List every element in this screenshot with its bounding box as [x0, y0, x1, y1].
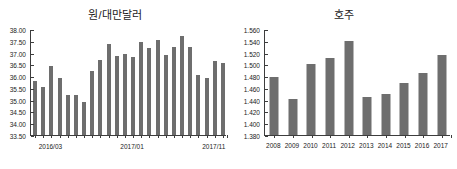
y-axis-tick	[265, 124, 268, 125]
y-axis-tick	[265, 54, 268, 55]
x-axis-tick	[451, 135, 452, 138]
bar	[363, 97, 372, 135]
x-axis-tick	[293, 135, 294, 138]
x-axis-tick	[207, 135, 208, 138]
bar-slot	[113, 30, 121, 135]
bar	[307, 64, 316, 135]
bar-slot	[186, 30, 194, 135]
x-axis-tick	[125, 135, 126, 138]
bar	[41, 87, 45, 135]
bar	[49, 66, 53, 135]
bar	[270, 77, 279, 135]
x-axis-tick-label: 2010	[303, 142, 317, 149]
x-axis-tick	[158, 135, 159, 138]
x-axis-tick	[215, 135, 216, 138]
plot-area-right	[264, 30, 450, 136]
x-axis-tick	[274, 135, 275, 138]
y-axis-tick-label: 1.500	[230, 62, 260, 69]
x-axis-tick	[60, 135, 61, 138]
x-axis-tick-label: 2014	[378, 142, 392, 149]
bar	[123, 54, 127, 135]
x-axis-tick	[166, 135, 167, 138]
bar	[180, 36, 184, 135]
y-axis-tick	[31, 112, 34, 113]
bar-slot	[47, 30, 55, 135]
y-axis-tick-label: 35.50	[0, 85, 26, 92]
bar-slot	[395, 30, 414, 135]
x-axis-tick	[133, 135, 134, 138]
bar-slot	[211, 30, 219, 135]
chart-panel-australia: 호주 1.5601.5401.5201.5001.4801.4601.4401.…	[230, 0, 457, 169]
x-axis-tick	[149, 135, 150, 138]
bar	[381, 94, 390, 135]
bar	[437, 55, 446, 135]
x-axis-tick	[223, 135, 224, 138]
y-axis-tick	[31, 124, 34, 125]
bar-slot	[39, 30, 47, 135]
bar-slot	[178, 30, 186, 135]
y-axis-tick-label: 1.460	[230, 85, 260, 92]
bar-slot	[377, 30, 396, 135]
x-axis-tick	[117, 135, 118, 138]
bar	[82, 102, 86, 135]
y-axis-tick	[265, 112, 268, 113]
x-axis-tick	[35, 135, 36, 138]
x-axis-tick	[141, 135, 142, 138]
bar-slot	[72, 30, 80, 135]
x-axis-tick-label: 2015	[396, 142, 410, 149]
x-axis-tick-label: 2008	[266, 142, 280, 149]
bar-slot	[203, 30, 211, 135]
y-axis-tick-label: 1.440	[230, 97, 260, 104]
bar-slot	[265, 30, 284, 135]
bar	[115, 56, 119, 135]
plot-area-left	[30, 30, 226, 136]
y-axis-tick-label: 1.540	[230, 38, 260, 45]
x-axis-tick-label: 2016	[415, 142, 429, 149]
x-axis-tick	[227, 135, 228, 138]
x-axis-tick-label: 2017/01	[120, 143, 144, 150]
x-axis-tick	[190, 135, 191, 138]
bar-slot	[96, 30, 104, 135]
x-axis-tick	[312, 135, 313, 138]
bar	[288, 99, 297, 135]
y-axis-tick-label: 34.50	[0, 109, 26, 116]
y-axis-tick-label: 1.560	[230, 27, 260, 34]
bar-slot	[302, 30, 321, 135]
bar-slot	[219, 30, 227, 135]
bar	[205, 78, 209, 135]
bar	[107, 44, 111, 135]
y-axis-tick-label: 36.50	[0, 62, 26, 69]
bar-slot	[80, 30, 88, 135]
y-axis-tick-label: 1.400	[230, 121, 260, 128]
y-axis-tick-label: 37.50	[0, 38, 26, 45]
bar-slot	[414, 30, 433, 135]
bar	[139, 42, 143, 135]
y-axis-tick-label: 1.520	[230, 50, 260, 57]
bar	[400, 83, 409, 135]
bar	[98, 60, 102, 135]
y-axis-tick-label: 35.00	[0, 97, 26, 104]
x-axis-tick	[174, 135, 175, 138]
x-axis-tick	[349, 135, 350, 138]
bar	[326, 58, 335, 135]
bar	[164, 55, 168, 135]
x-axis-tick	[109, 135, 110, 138]
bar	[74, 95, 78, 136]
bar	[156, 40, 160, 135]
x-axis-tick	[182, 135, 183, 138]
bar-slot	[432, 30, 451, 135]
bar-slot	[64, 30, 72, 135]
y-axis-tick-label: 1.420	[230, 109, 260, 116]
y-axis-tick	[265, 77, 268, 78]
y-axis-tick	[265, 65, 268, 66]
x-axis-tick	[423, 135, 424, 138]
bar	[58, 78, 62, 135]
x-axis-tick	[386, 135, 387, 138]
bar	[147, 48, 151, 135]
x-axis-tick-label: 2011	[322, 142, 336, 149]
y-axis-tick	[265, 101, 268, 102]
y-axis-tick	[31, 42, 34, 43]
bar-slot	[154, 30, 162, 135]
dual-chart-figure: 원/대만달러 38.0037.5037.0036.5036.0035.5035.…	[0, 0, 457, 169]
x-axis-tick	[43, 135, 44, 138]
